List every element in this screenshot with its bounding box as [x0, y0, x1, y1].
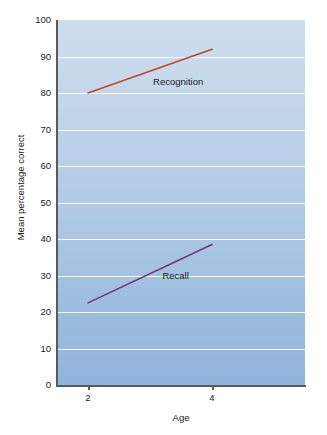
y-tick-label: 20: [0, 307, 51, 317]
y-tick-label: 10: [0, 344, 51, 354]
y-tick-label: 90: [0, 52, 51, 62]
gridline: [57, 239, 305, 240]
x-axis-line: [56, 385, 306, 387]
y-tick-label: 70: [0, 125, 51, 135]
gridline: [57, 57, 305, 58]
y-axis-line: [56, 20, 58, 386]
x-tick-label: 2: [73, 393, 103, 403]
line-chart: 0102030405060708090100 24 Recognition Re…: [0, 0, 327, 435]
y-tick-label: 100: [0, 15, 51, 25]
series-label-recall: Recall: [162, 270, 188, 281]
series-label-recognition: Recognition: [153, 76, 203, 87]
y-tick-label: 0: [0, 380, 51, 390]
gridline: [57, 349, 305, 350]
gridline: [57, 130, 305, 131]
gridline: [57, 93, 305, 94]
gridline: [57, 166, 305, 167]
x-tick-mark: [212, 385, 214, 390]
y-tick-label: 60: [0, 161, 51, 171]
x-tick-label: 4: [197, 393, 227, 403]
x-axis-title: Age: [57, 412, 305, 423]
gridline: [57, 203, 305, 204]
x-tick-mark: [88, 385, 90, 390]
y-tick-label: 80: [0, 88, 51, 98]
y-tick-label: 40: [0, 234, 51, 244]
y-axis-title: Mean percentage correct: [15, 98, 26, 278]
y-tick-label: 30: [0, 271, 51, 281]
gridline: [57, 312, 305, 313]
plot-area: [57, 20, 305, 385]
y-tick-label: 50: [0, 198, 51, 208]
